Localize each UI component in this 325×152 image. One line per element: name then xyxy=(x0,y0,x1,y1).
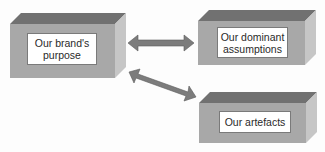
connector-arrows xyxy=(0,0,325,152)
double-arrow-icon xyxy=(128,35,194,51)
double-arrow-icon xyxy=(129,69,196,101)
